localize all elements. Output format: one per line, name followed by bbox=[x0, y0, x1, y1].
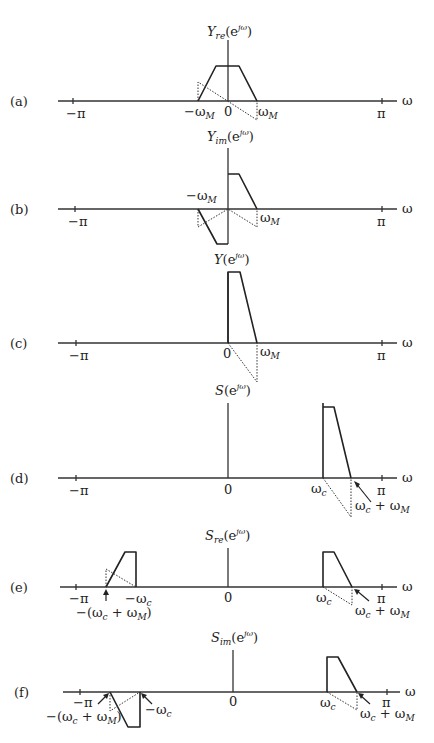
axis-variable-label: ω bbox=[402, 335, 413, 350]
tick-label-neg-pi: −π bbox=[66, 106, 86, 121]
axis-variable-label: ω bbox=[405, 684, 416, 699]
panel-label: (a) bbox=[10, 94, 28, 109]
tick-label-neg-omega-c-plus-omega-m: −(ωc + ωM) bbox=[46, 709, 122, 726]
y-axis-label: S(ejω) bbox=[215, 382, 251, 398]
arrowhead-icon bbox=[103, 589, 109, 595]
panel-label: (c) bbox=[10, 336, 27, 351]
spectrum-negative bbox=[198, 209, 228, 244]
tick-label-omega-m: ωM bbox=[260, 210, 281, 227]
tick-label-neg-pi: −π bbox=[69, 483, 89, 498]
tick-label-neg-omega-c-plus-omega-m: −(ωc + ωM) bbox=[76, 605, 152, 622]
tick-label-omega-c: ωc bbox=[316, 590, 332, 607]
tick-label-neg-omega-m: −ωM bbox=[186, 188, 218, 205]
axis-variable-label: ω bbox=[402, 579, 413, 594]
origin-label: 0 bbox=[223, 346, 231, 361]
y-axis-label: Yre(ejω) bbox=[207, 23, 252, 41]
positive-band-spectrum bbox=[323, 552, 352, 587]
panel-f: (f) −π π ω 0 Sim(ejω) −(ωc + ωM) −ωc ωc … bbox=[14, 629, 416, 727]
spectrum-positive bbox=[228, 174, 257, 209]
axis-variable-label: ω bbox=[402, 93, 413, 108]
y-axis-label: Y(ejω) bbox=[214, 251, 249, 267]
tick-label-pi: π bbox=[377, 106, 386, 121]
panel-b: (b) −π π ω Yim(ejω) −ωM ωM bbox=[10, 128, 413, 244]
origin-label: 0 bbox=[224, 104, 232, 119]
tick-label-omega-m: ωM bbox=[258, 104, 279, 121]
y-axis-label: Sre(ejω) bbox=[205, 527, 250, 545]
panel-label: (e) bbox=[10, 580, 28, 595]
tick-label-pi: π bbox=[377, 214, 386, 229]
origin-label: 0 bbox=[224, 482, 232, 497]
spectrum-figure: (a) −π π ω 0 Yre(ejω) −ωM ωM (b) −π π ω … bbox=[0, 0, 434, 743]
tick-label-neg-omega-c: −ωc bbox=[145, 702, 172, 719]
panel-a: (a) −π π ω 0 Yre(ejω) −ωM ωM bbox=[10, 23, 413, 121]
axis-variable-label: ω bbox=[402, 470, 413, 485]
tick-label-neg-omega-c: −ωc bbox=[125, 591, 152, 608]
panel-label: (b) bbox=[10, 202, 28, 217]
shifted-spectrum bbox=[323, 407, 351, 478]
dotted-component bbox=[228, 343, 257, 382]
y-axis-label: Sim(ejω) bbox=[211, 629, 258, 647]
panel-e: (e) −π π ω 0 Sre(ejω) −(ωc + ωM) −ωc ωc … bbox=[10, 527, 413, 622]
tick-label-neg-pi: −π bbox=[73, 695, 93, 710]
tick-label-omega-c: ωc bbox=[320, 695, 336, 712]
panel-label: (f) bbox=[14, 685, 29, 700]
y-axis-label: Yim(ejω) bbox=[207, 128, 254, 146]
panel-c: (c) −π π ω 0 Y(ejω) ωM bbox=[10, 251, 413, 382]
tick-label-omega-c: ωc bbox=[311, 481, 327, 498]
origin-label: 0 bbox=[224, 590, 232, 605]
tick-label-omega-m: ωM bbox=[260, 344, 281, 361]
tick-label-omega-c-plus-omega-m: ωc + ωM bbox=[355, 603, 410, 620]
tick-label-pi: π bbox=[377, 348, 386, 363]
tick-label-neg-pi: −π bbox=[68, 214, 88, 229]
tick-label-omega-c-plus-omega-m: ωc + ωM bbox=[360, 706, 415, 723]
panel-label: (d) bbox=[10, 471, 28, 486]
tick-label-neg-pi: −π bbox=[69, 348, 89, 363]
tick-label-omega-c-plus-omega-m: ωc + ωM bbox=[355, 498, 410, 515]
spectrum-one-sided bbox=[228, 272, 257, 343]
positive-band-spectrum bbox=[327, 657, 357, 692]
negative-band-spectrum bbox=[106, 552, 136, 587]
dotted-component bbox=[323, 478, 351, 517]
tick-label-neg-pi: −π bbox=[69, 591, 89, 606]
tick-label-neg-omega-m: −ωM bbox=[184, 104, 216, 121]
panel-d: (d) −π π ω 0 S(ejω) ωc ωc + ωM bbox=[10, 382, 413, 517]
axis-variable-label: ω bbox=[402, 201, 413, 216]
origin-label: 0 bbox=[229, 694, 237, 709]
tick-label-pi: π bbox=[377, 483, 386, 498]
